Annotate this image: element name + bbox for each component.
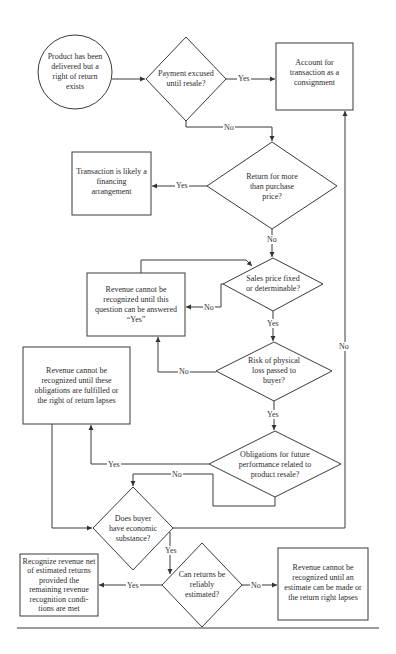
recognize-net-box: Recognize revenue net of estimated retur… xyxy=(22,557,96,613)
edge-label-payment-yes: Yes xyxy=(237,74,251,83)
cannot-until-yes-box: Revenue cannot be recognized until this … xyxy=(94,283,178,327)
financing-box: Transaction is likely a financing arrang… xyxy=(76,163,147,201)
edge-label-risk-no: No xyxy=(178,367,190,376)
payment-decision: Payment excused until resale? xyxy=(156,62,216,96)
edge-label-obligations-yes: Yes xyxy=(107,460,121,469)
return-more-decision: Return for more than purchase price? xyxy=(242,166,302,208)
consignment-box: Account for transaction as a consignment xyxy=(280,55,349,91)
estimate-decision: Can returns be reliably estimated? xyxy=(176,565,228,605)
edge-label-estimate-no: No xyxy=(250,581,262,590)
economic-decision: Does buyer have economic substance? xyxy=(108,508,158,550)
edge-label-payment-no: No xyxy=(223,123,235,132)
edge-label-sales-yes: Yes xyxy=(266,319,280,328)
edge-label-obligations-no: No xyxy=(171,470,183,479)
cannot-obligations-box: Revenue cannot be recognized until these… xyxy=(30,360,123,412)
sales-price-decision: Sales price fixed or determinable? xyxy=(243,270,303,298)
cannot-estimate-box: Revenue cannot be recognized until an es… xyxy=(284,558,362,608)
risk-decision: Risk of physical loss passed to buyer? xyxy=(244,351,304,391)
edge-label-return-no: No xyxy=(266,235,278,244)
edge-label-sales-no: No xyxy=(203,303,215,312)
edge-label-risk-yes: Yes xyxy=(266,410,280,419)
edge-label-return-yes: Yes xyxy=(175,181,189,190)
edge-label-economic-no: No xyxy=(338,342,350,351)
edge-label-economic-yes: Yes xyxy=(164,546,178,555)
obligations-decision: Obligations for future performance relat… xyxy=(238,440,312,490)
start-node: Product has been delivered but a right o… xyxy=(45,42,105,102)
edge-label-estimate-yes: Yes xyxy=(126,581,140,590)
